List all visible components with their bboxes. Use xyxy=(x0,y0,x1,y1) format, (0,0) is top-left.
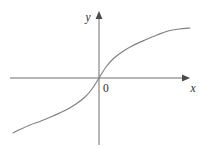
x-axis-label: x xyxy=(189,82,196,94)
coordinate-axes-figure: y x 0 xyxy=(0,0,204,148)
y-axis-label: y xyxy=(84,11,91,24)
function-curve xyxy=(13,28,190,133)
x-axis-arrow-icon xyxy=(182,75,190,82)
origin-label: 0 xyxy=(103,82,109,94)
y-axis-arrow-icon xyxy=(96,11,103,19)
figure-canvas: y x 0 xyxy=(0,0,204,148)
